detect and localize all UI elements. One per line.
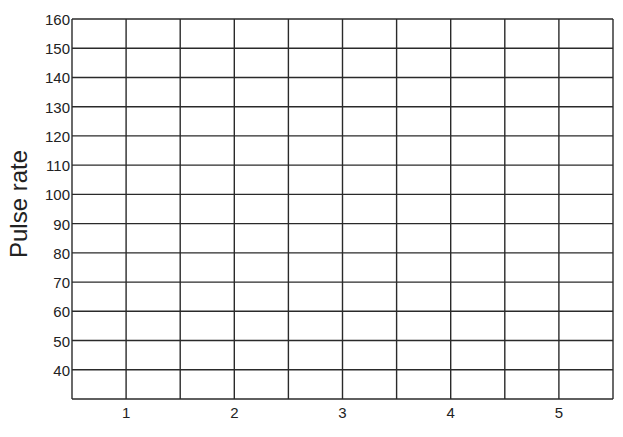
chart-grid bbox=[0, 0, 623, 437]
chart: Pulse rate 16015014013012011010090807060… bbox=[0, 0, 623, 437]
y-tick-label: 150 bbox=[45, 41, 70, 56]
y-tick-label: 90 bbox=[53, 217, 70, 232]
y-tick-label: 80 bbox=[53, 246, 70, 261]
y-tick-label: 100 bbox=[45, 187, 70, 202]
y-tick-label: 160 bbox=[45, 12, 70, 27]
x-tick-label: 2 bbox=[224, 405, 244, 420]
y-axis-label: Pulse rate bbox=[5, 139, 33, 269]
y-tick-label: 130 bbox=[45, 100, 70, 115]
y-tick-label: 60 bbox=[53, 304, 70, 319]
x-tick-label: 4 bbox=[441, 405, 461, 420]
y-tick-label: 70 bbox=[53, 275, 70, 290]
y-tick-label: 110 bbox=[46, 158, 70, 173]
x-tick-label: 3 bbox=[333, 405, 353, 420]
y-tick-label: 120 bbox=[45, 129, 70, 144]
y-tick-label: 140 bbox=[45, 70, 70, 85]
x-tick-label: 5 bbox=[549, 405, 569, 420]
y-tick-label: 50 bbox=[53, 334, 70, 349]
y-tick-label: 40 bbox=[53, 363, 70, 378]
x-tick-label: 1 bbox=[116, 405, 136, 420]
